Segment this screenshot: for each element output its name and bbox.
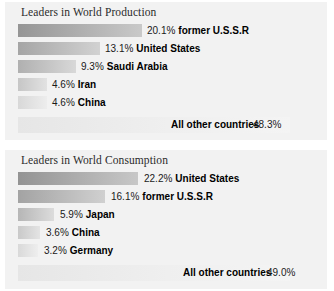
bar-row-label: 4.6%Iran bbox=[52, 78, 96, 91]
bar-category-name: Iran bbox=[78, 79, 96, 90]
bar-row: 5.9%Japan bbox=[5, 206, 327, 224]
bar-row-label: 3.6%China bbox=[46, 226, 100, 239]
bar-row-label: 20.1%former U.S.S.R bbox=[147, 24, 249, 37]
bar-value-percent: 13.1% bbox=[105, 43, 133, 54]
bar-fill bbox=[18, 24, 142, 37]
bar-rows-production: 20.1%former U.S.S.R 13.1%United States 9… bbox=[5, 22, 327, 135]
bar-fill bbox=[18, 226, 40, 239]
bar-row: 20.1%former U.S.S.R bbox=[5, 22, 327, 40]
bar-value-percent-all-other: 49.0% bbox=[267, 265, 295, 281]
bar-row: 4.6%Iran bbox=[5, 76, 327, 94]
bar-category-name: China bbox=[72, 227, 100, 238]
bar-category-name: China bbox=[78, 97, 106, 108]
bar-row: 3.6%China bbox=[5, 224, 327, 242]
bar-rows-consumption: 22.2%United States 16.1%former U.S.S.R 5… bbox=[5, 170, 327, 283]
bar-value-percent: 3.6% bbox=[46, 227, 69, 238]
chart-panel-consumption: Leaders in World Consumption 22.2%United… bbox=[5, 150, 327, 289]
bar-row-label: 9.3%Saudi Arabia bbox=[81, 60, 168, 73]
bar-category-name-all-other: All other countries bbox=[171, 117, 259, 133]
bar-value-percent: 9.3% bbox=[81, 61, 104, 72]
bar-row: 13.1%United States bbox=[5, 40, 327, 58]
bar-category-name: Japan bbox=[86, 209, 115, 220]
bar-fill bbox=[18, 78, 47, 91]
bar-fill bbox=[18, 42, 100, 55]
bar-category-name: Saudi Arabia bbox=[107, 61, 168, 72]
bar-value-percent: 4.6% bbox=[52, 79, 75, 90]
bar-row-all-other: All other countries 48.3% bbox=[5, 115, 327, 135]
bar-fill bbox=[18, 244, 38, 257]
chart-title-production: Leaders in World Production bbox=[21, 6, 156, 18]
chart-title-consumption: Leaders in World Consumption bbox=[21, 154, 168, 166]
bar-value-percent: 22.2% bbox=[144, 173, 172, 184]
bar-fill bbox=[18, 208, 54, 221]
chart-page: Leaders in World Production 20.1%former … bbox=[0, 0, 334, 291]
bar-row: 16.1%former U.S.S.R bbox=[5, 188, 327, 206]
bar-value-percent-all-other: 48.3% bbox=[253, 117, 281, 133]
bar-row: 22.2%United States bbox=[5, 170, 327, 188]
bar-row: 9.3%Saudi Arabia bbox=[5, 58, 327, 76]
bar-fill bbox=[18, 172, 138, 185]
bar-category-name: Germany bbox=[70, 245, 113, 256]
bar-fill bbox=[18, 60, 76, 73]
bar-row-all-other: All other countries 49.0% bbox=[5, 263, 327, 283]
bar-value-percent: 3.2% bbox=[44, 245, 67, 256]
bar-row-label: 4.6%China bbox=[52, 96, 106, 109]
bar-category-name: former U.S.S.R bbox=[178, 25, 249, 36]
bar-row-label: 3.2%Germany bbox=[44, 244, 113, 257]
bar-row-label: 16.1%former U.S.S.R bbox=[111, 190, 213, 203]
bar-row: 4.6%China bbox=[5, 94, 327, 112]
chart-panel-production: Leaders in World Production 20.1%former … bbox=[5, 2, 327, 140]
bar-fill bbox=[18, 96, 47, 109]
bar-category-name: United States bbox=[136, 43, 200, 54]
bar-row-label: 5.9%Japan bbox=[60, 208, 115, 221]
bar-value-percent: 16.1% bbox=[111, 191, 139, 202]
bar-fill bbox=[18, 190, 105, 203]
bar-row-label: 22.2%United States bbox=[144, 172, 239, 185]
bar-category-name: United States bbox=[175, 173, 239, 184]
bar-value-percent: 4.6% bbox=[52, 97, 75, 108]
bar-value-percent: 5.9% bbox=[60, 209, 83, 220]
bar-row: 3.2%Germany bbox=[5, 242, 327, 260]
bar-category-name-all-other: All other countries bbox=[183, 265, 271, 281]
bar-category-name: former U.S.S.R bbox=[142, 191, 213, 202]
bar-row-label: 13.1%United States bbox=[105, 42, 200, 55]
bar-value-percent: 20.1% bbox=[147, 25, 175, 36]
